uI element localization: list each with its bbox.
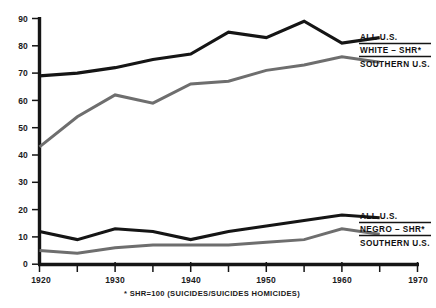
y-tick-label: 20 (18, 205, 28, 215)
x-tick-label: 1930 (105, 275, 125, 285)
y-tick-label: 90 (18, 14, 28, 24)
x-tick-label: 1970 (408, 275, 428, 285)
legend-negro-southern-us-label: SOUTHERN U.S. (360, 239, 430, 248)
series-line-negro-southern-us (40, 229, 380, 254)
line-chart: 90 80 70 60 50 40 30 20 10 0 19 (0, 0, 436, 308)
series-line-negro-all-us (40, 215, 380, 240)
legend-white-all-us-label: ALL U.S. (360, 33, 398, 42)
legend-white-southern-us-label: SOUTHERN U.S. (360, 60, 430, 69)
x-axis-tick-labels: 1920 1930 1940 1950 1960 1970 (31, 275, 428, 285)
legend-negro-all-us-label: ALL U.S. (360, 212, 398, 221)
chart-footnote: * SHR=100 (SUICIDES/SUICIDES HOMICIDES) (124, 289, 300, 298)
x-tick-label: 1950 (256, 275, 276, 285)
series-line-white-all-us (40, 21, 380, 76)
legend-white: ALL U.S. WHITE – SHR* SOUTHERN U.S. (359, 33, 431, 69)
y-axis-tick-labels: 90 80 70 60 50 40 30 20 10 0 (18, 14, 28, 270)
y-tick-label: 40 (18, 150, 28, 160)
y-tick-label: 50 (18, 123, 28, 133)
y-tick-label: 80 (18, 41, 28, 51)
legend-negro-series-label: NEGRO – SHR* (360, 225, 425, 234)
legend-negro: ALL U.S. NEGRO – SHR* SOUTHERN U.S. (359, 212, 431, 248)
y-tick-label: 70 (18, 68, 28, 78)
y-tick-label: 0 (23, 259, 28, 269)
legend-white-series-label: WHITE – SHR* (360, 46, 422, 55)
y-tick-label: 30 (18, 177, 28, 187)
y-tick-label: 60 (18, 96, 28, 106)
x-tick-label: 1960 (332, 275, 352, 285)
chart-container: 90 80 70 60 50 40 30 20 10 0 19 (0, 0, 436, 308)
y-tick-label: 10 (18, 232, 28, 242)
x-tick-label: 1920 (31, 275, 51, 285)
x-tick-label: 1940 (181, 275, 201, 285)
